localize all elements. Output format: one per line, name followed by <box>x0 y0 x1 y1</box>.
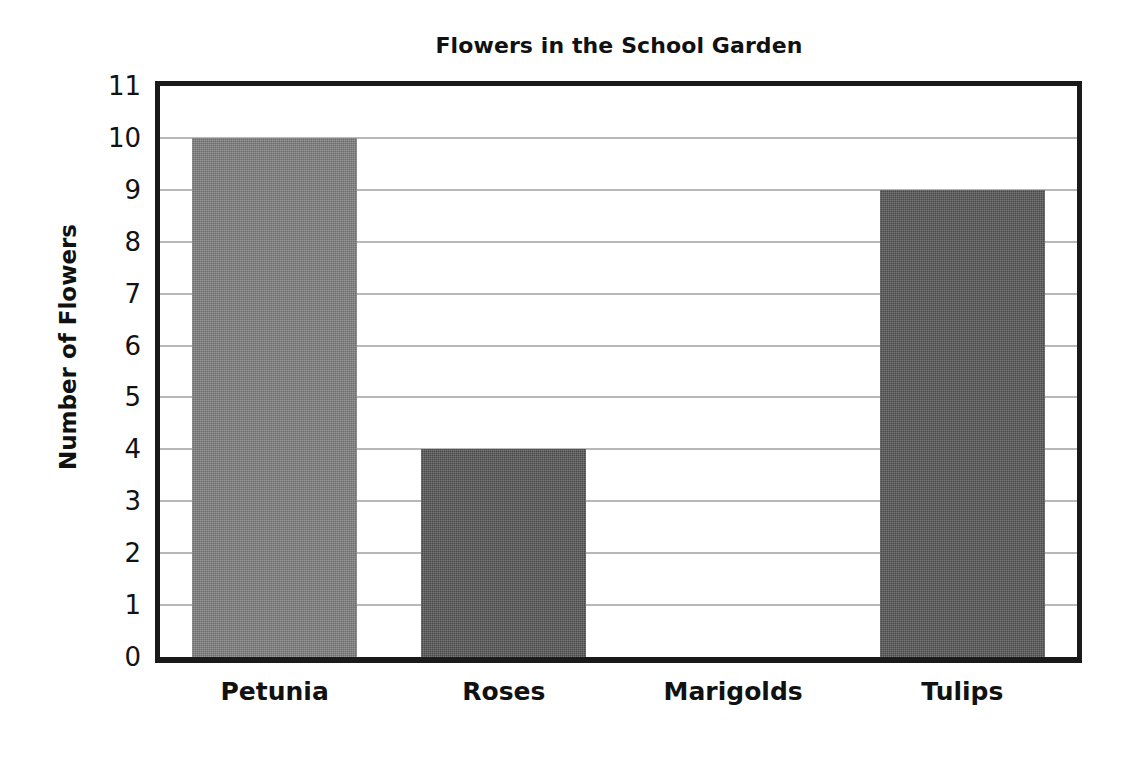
plot-area <box>155 81 1082 663</box>
x-axis-tick-labels: PetuniaRosesMarigoldsTulips <box>155 676 1082 716</box>
bar-petunia <box>192 138 357 657</box>
y-axis-tick-label: 4 <box>87 436 141 462</box>
y-axis-tick-label: 2 <box>87 540 141 566</box>
y-axis-title: Number of Flowers <box>46 67 90 627</box>
y-axis-tick-label: 0 <box>87 644 141 670</box>
bar-tulips <box>880 190 1045 657</box>
bar-chart: Flowers in the School Garden Number of F… <box>0 0 1133 758</box>
x-axis-tick-label: Petunia <box>155 676 395 708</box>
y-axis-tick-label: 5 <box>87 384 141 410</box>
x-axis-tick-label: Tulips <box>842 676 1082 708</box>
y-axis-tick-label: 11 <box>87 73 141 99</box>
y-axis-tick-label: 8 <box>87 229 141 255</box>
y-axis-tick-label: 9 <box>87 177 141 203</box>
x-axis-tick-label: Roses <box>384 676 624 708</box>
y-axis-tick-label: 10 <box>87 125 141 151</box>
chart-title: Flowers in the School Garden <box>155 33 1083 59</box>
y-axis-tick-label: 1 <box>87 592 141 618</box>
x-axis-tick-label: Marigolds <box>613 676 853 708</box>
y-axis-tick-label: 7 <box>87 281 141 307</box>
plot-inner <box>160 86 1077 657</box>
y-axis-tick-label: 6 <box>87 333 141 359</box>
y-axis-tick-label: 3 <box>87 488 141 514</box>
bar-roses <box>421 449 586 657</box>
y-axis-tick-labels: 11109876543210 <box>85 0 141 758</box>
